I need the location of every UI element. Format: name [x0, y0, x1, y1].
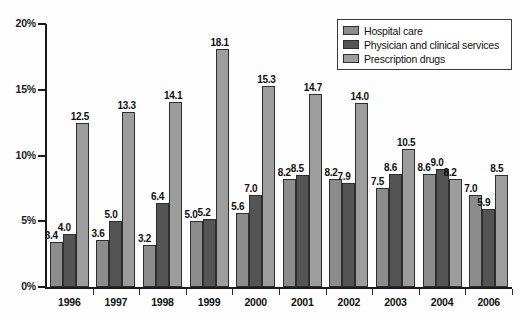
bar: [436, 169, 449, 287]
bar-value-label: 15.3: [257, 74, 275, 85]
bar-value-label: 5.0: [104, 209, 117, 220]
legend-item-hospital-care: Hospital care: [343, 24, 506, 37]
bar: [329, 179, 342, 287]
bar-value-label: 4.0: [58, 222, 71, 233]
x-axis-separator: [279, 289, 280, 295]
legend-item-physician-and-clinical-services: Physician and clinical services: [343, 38, 506, 51]
bar-value-label: 3.6: [91, 228, 104, 239]
legend-swatch-icon: [343, 40, 359, 49]
bar-value-label: 7.0: [244, 183, 257, 194]
bar-group: 5.05.218.1: [190, 24, 229, 287]
y-axis-tick-label: 20%: [0, 17, 36, 29]
legend-swatch-icon: [343, 54, 359, 63]
x-axis-tick-label: 2000: [232, 296, 279, 308]
x-axis-separator: [232, 289, 233, 295]
y-axis-tick: [38, 23, 46, 25]
x-axis-separator: [186, 289, 187, 295]
x-axis-separator: [419, 289, 420, 295]
bar-value-label: 13.3: [117, 100, 135, 111]
bar: [495, 175, 508, 287]
y-axis-tick: [38, 155, 46, 157]
x-axis-separator: [139, 289, 140, 295]
bar-value-label: 18.1: [211, 37, 229, 48]
x-axis-separator: [93, 289, 94, 295]
bar-value-label: 5.2: [198, 207, 211, 218]
bar-value-label: 8.2: [278, 167, 291, 178]
bar-value-label: 8.6: [384, 162, 397, 173]
x-axis-separator: [372, 289, 373, 295]
bar: [296, 175, 309, 287]
y-axis-tick-label: 0%: [0, 280, 36, 292]
bar-value-label: 7.0: [464, 183, 477, 194]
y-axis-tick: [38, 286, 46, 288]
bar: [156, 203, 169, 287]
bar-group: 5.67.015.3: [236, 24, 275, 287]
bar: [76, 123, 89, 287]
legend-item-label: Prescription drugs: [364, 53, 445, 65]
bar: [50, 242, 63, 287]
bar-value-label: 6.4: [151, 191, 164, 202]
bar: [203, 219, 216, 287]
legend-item-prescription-drugs: Prescription drugs: [343, 52, 506, 65]
bar-value-label: 8.5: [490, 163, 503, 174]
x-axis-tick-label: 1997: [93, 296, 140, 308]
x-axis-tick-label: 2003: [372, 296, 419, 308]
bar-value-label: 9.0: [431, 157, 444, 168]
bar: [236, 213, 249, 287]
bar: [122, 112, 135, 287]
bar: [342, 183, 355, 287]
bar-group: 8.28.514.7: [283, 24, 322, 287]
bar: [423, 174, 436, 287]
bar-value-label: 5.0: [185, 209, 198, 220]
bar: [262, 86, 275, 287]
x-axis-tick-label: 1998: [139, 296, 186, 308]
bar-chart: 0%5%10%15%20% 3.44.012.53.65.013.33.26.4…: [0, 0, 520, 320]
bar-value-label: 7.5: [371, 176, 384, 187]
bar: [169, 102, 182, 287]
bar: [283, 179, 296, 287]
y-axis-tick: [38, 89, 46, 91]
x-axis-tick-label: 2001: [279, 296, 326, 308]
bar-value-label: 14.7: [304, 82, 322, 93]
bar-value-label: 8.2: [324, 167, 337, 178]
bar-value-label: 12.5: [71, 111, 89, 122]
bar-value-label: 8.6: [418, 162, 431, 173]
bar-value-label: 5.9: [477, 197, 490, 208]
x-axis-separator: [512, 289, 513, 295]
bar: [63, 234, 76, 287]
bar-value-label: 10.5: [397, 137, 415, 148]
y-axis-tick: [38, 220, 46, 222]
chart-legend: Hospital care Physician and clinical ser…: [337, 19, 512, 70]
bar-value-label: 5.6: [231, 201, 244, 212]
bar-value-label: 14.0: [350, 91, 368, 102]
bar: [190, 221, 203, 287]
bar-value-label: 3.4: [45, 230, 58, 241]
x-axis-separator: [465, 289, 466, 295]
bar-value-label: 3.2: [138, 233, 151, 244]
bar: [389, 174, 402, 287]
bar-value-label: 14.1: [164, 90, 182, 101]
bar: [96, 240, 109, 287]
legend-swatch-icon: [343, 26, 359, 35]
x-axis-separator: [326, 289, 327, 295]
bar: [449, 179, 462, 287]
bar: [249, 195, 262, 287]
y-axis-tick-label: 5%: [0, 214, 36, 226]
bar-value-label: 7.9: [337, 171, 350, 182]
bar: [469, 195, 482, 287]
bar-group: 3.65.013.3: [96, 24, 135, 287]
x-axis-tick-label: 2006: [465, 296, 512, 308]
x-axis-tick-label: 2004: [419, 296, 466, 308]
legend-item-label: Hospital care: [364, 25, 423, 37]
x-axis-tick-label: 2002: [326, 296, 373, 308]
bar: [376, 188, 389, 287]
y-axis-tick-label: 10%: [0, 149, 36, 161]
bar-value-label: 8.2: [444, 167, 457, 178]
bar: [482, 209, 495, 287]
x-axis-tick-label: 1999: [186, 296, 233, 308]
legend-item-label: Physician and clinical services: [364, 39, 499, 51]
bar-value-label: 8.5: [291, 163, 304, 174]
bar: [402, 149, 415, 287]
bar-group: 3.26.414.1: [143, 24, 182, 287]
bar: [216, 49, 229, 287]
